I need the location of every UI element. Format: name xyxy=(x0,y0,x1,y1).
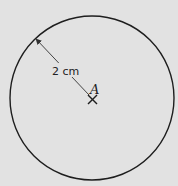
circle-diagram: 2 cm A xyxy=(0,0,178,186)
circle xyxy=(10,16,174,180)
radius-label: 2 cm xyxy=(52,65,79,78)
center-label: A xyxy=(89,82,99,97)
